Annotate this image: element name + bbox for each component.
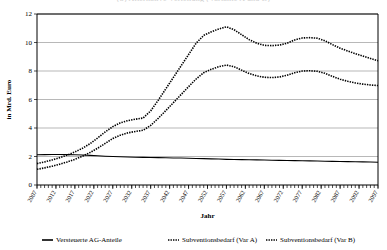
chart-figure: (b) Alternative Verteilung (Variante A u… (0, 0, 387, 250)
xtick-label-2017: 2017 (64, 189, 76, 203)
xtick-label-2012: 2012 (45, 189, 57, 203)
series-line-2 (37, 65, 378, 169)
xtick-label-2032: 2032 (120, 189, 132, 203)
ytick-label-8: 8 (29, 67, 33, 75)
ytick-label-2: 2 (29, 153, 33, 161)
x-axis-title: Jahr (201, 212, 215, 220)
xtick-label-2047: 2047 (177, 189, 189, 203)
xtick-label-2092: 2092 (348, 189, 360, 203)
xtick-label-2052: 2052 (196, 189, 208, 203)
legend-label-2: Subventionsbedarf (Var B) (280, 236, 356, 244)
legend-label-0: Versteuerte AG-Anteile (56, 236, 122, 244)
xtick-label-2082: 2082 (310, 189, 322, 203)
figure-title-clipped: (b) Alternative Verteilung (Variante A u… (0, 0, 387, 2)
ytick-label-12: 12 (25, 10, 33, 18)
xtick-label-2067: 2067 (253, 189, 265, 203)
ytick-label-10: 10 (25, 39, 33, 47)
xtick-label-2062: 2062 (234, 189, 246, 203)
xtick-label-2022: 2022 (82, 189, 94, 203)
line-chart-svg: 0246810122007201220172022202720322037204… (0, 0, 387, 250)
xtick-label-2077: 2077 (291, 189, 303, 203)
xtick-label-2097: 2097 (367, 189, 379, 203)
ytick-label-0: 0 (29, 181, 33, 189)
xtick-label-2072: 2072 (272, 189, 284, 203)
xtick-label-2042: 2042 (158, 189, 170, 203)
series-line-1 (37, 27, 378, 164)
xtick-label-2087: 2087 (329, 189, 341, 203)
ytick-label-4: 4 (29, 124, 33, 132)
y-axis-title: in Mrd. Euro (5, 79, 13, 119)
xtick-label-2027: 2027 (101, 189, 113, 203)
xtick-label-2037: 2037 (139, 189, 151, 203)
legend-label-1: Subventionsbedarf (Var A) (182, 236, 258, 244)
xtick-label-2057: 2057 (215, 189, 227, 203)
series-line-0 (37, 155, 378, 163)
xtick-label-2007: 2007 (26, 189, 38, 203)
ytick-label-6: 6 (29, 96, 33, 104)
